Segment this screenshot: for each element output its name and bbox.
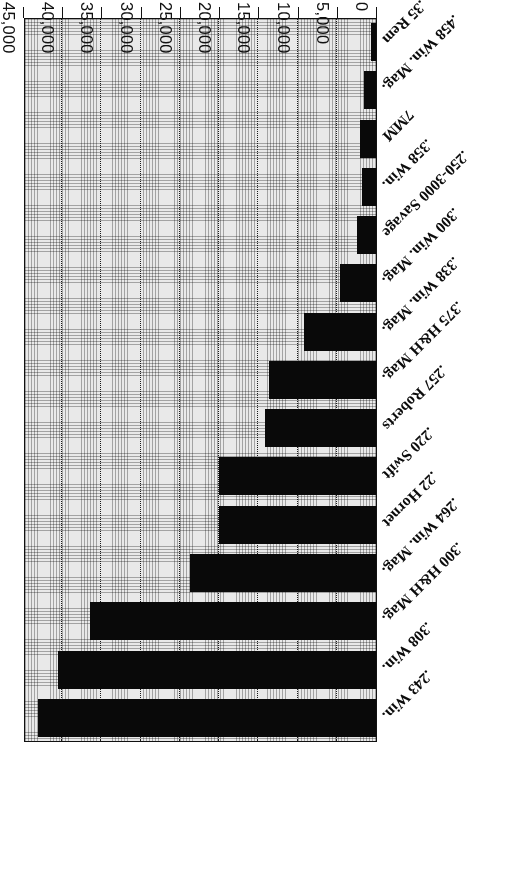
tick-label-35000: 35,000 bbox=[77, 2, 96, 54]
bar bbox=[90, 602, 376, 640]
bar-row bbox=[25, 258, 376, 306]
tick-mark bbox=[62, 7, 63, 18]
bar-row bbox=[25, 644, 376, 692]
bar-row bbox=[25, 596, 376, 644]
tick-label-15000: 15,000 bbox=[234, 2, 253, 54]
bar bbox=[364, 71, 376, 109]
tick-label-40000: 40,000 bbox=[38, 2, 57, 54]
bar bbox=[265, 409, 376, 447]
bar-row bbox=[25, 210, 376, 258]
bar bbox=[58, 651, 376, 689]
bar-chart-figure: 05,00010,00015,00020,00025,00030,00035,0… bbox=[0, 0, 530, 871]
tick-label-10000: 10,000 bbox=[274, 2, 293, 54]
tick-mark bbox=[101, 7, 102, 18]
tick-label-0: 0 bbox=[352, 2, 371, 11]
plot-area bbox=[24, 18, 377, 742]
bar-row bbox=[25, 693, 376, 741]
bar bbox=[360, 120, 376, 158]
bar-row bbox=[25, 65, 376, 113]
bar bbox=[357, 216, 376, 254]
bar-row bbox=[25, 307, 376, 355]
bar-row bbox=[25, 114, 376, 162]
scanned-page: 05,00010,00015,00020,00025,00030,00035,0… bbox=[0, 0, 530, 871]
tick-mark bbox=[219, 7, 220, 18]
tick-mark bbox=[141, 7, 142, 18]
tick-mark bbox=[337, 7, 338, 18]
bar bbox=[269, 361, 376, 399]
tick-label-20000: 20,000 bbox=[195, 2, 214, 54]
bar bbox=[304, 313, 376, 351]
tick-label-5000: 5,000 bbox=[313, 2, 332, 44]
bar bbox=[362, 168, 376, 206]
bar-row bbox=[25, 548, 376, 596]
bar bbox=[190, 554, 376, 592]
bar-row bbox=[25, 355, 376, 403]
bar bbox=[38, 699, 376, 737]
tick-mark bbox=[180, 7, 181, 18]
tick-label-45000: 45,000 bbox=[0, 2, 18, 54]
tick-mark bbox=[258, 7, 259, 18]
bar bbox=[371, 23, 376, 61]
tick-label-25000: 25,000 bbox=[156, 2, 175, 54]
tick-label-30000: 30,000 bbox=[117, 2, 136, 54]
bar bbox=[340, 264, 376, 302]
bar bbox=[219, 506, 376, 544]
bar-row bbox=[25, 162, 376, 210]
bar-row bbox=[25, 451, 376, 499]
tick-mark bbox=[23, 7, 24, 18]
bar bbox=[219, 457, 376, 495]
bar-row bbox=[25, 403, 376, 451]
tick-mark bbox=[376, 7, 377, 18]
tick-mark bbox=[298, 7, 299, 18]
bar-row bbox=[25, 500, 376, 548]
